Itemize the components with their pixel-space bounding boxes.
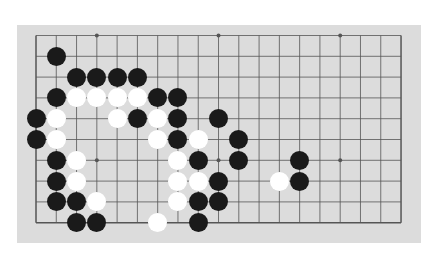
white-stone [67, 151, 86, 170]
star-point [217, 34, 221, 38]
white-stone [168, 172, 187, 191]
white-stone [47, 109, 66, 128]
star-point [338, 34, 342, 38]
black-stone [47, 151, 66, 170]
black-stone [229, 151, 248, 170]
star-point [95, 158, 99, 162]
white-stone [108, 88, 127, 107]
black-stone [290, 151, 309, 170]
white-stone [67, 172, 86, 191]
white-stone [108, 109, 127, 128]
black-stone [67, 68, 86, 87]
black-stone [128, 68, 147, 87]
black-stone [189, 151, 208, 170]
white-stone [189, 172, 208, 191]
black-stone [27, 130, 46, 149]
black-stone [209, 172, 228, 191]
black-stone [290, 172, 309, 191]
star-point [95, 34, 99, 38]
black-stone [47, 47, 66, 66]
white-stone [270, 172, 289, 191]
black-stone [108, 68, 127, 87]
black-stone [27, 109, 46, 128]
white-stone [47, 130, 66, 149]
black-stone [189, 192, 208, 211]
star-point [338, 158, 342, 162]
star-point [217, 158, 221, 162]
black-stone [128, 109, 147, 128]
white-stone [189, 130, 208, 149]
black-stone [189, 213, 208, 232]
black-stone [87, 68, 106, 87]
black-stone [47, 172, 66, 191]
